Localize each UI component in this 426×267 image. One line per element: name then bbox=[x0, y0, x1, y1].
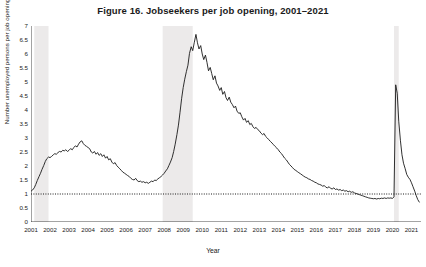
x-axis-ticks: 2001200220032004200520062007200820092010… bbox=[31, 226, 425, 238]
y-tick-label: 4 bbox=[2, 106, 28, 113]
y-tick-label: 3 bbox=[2, 134, 28, 141]
figure-container: Figure 16. Jobseekers per job opening, 2… bbox=[0, 0, 426, 267]
y-tick-label: 5 bbox=[2, 78, 28, 85]
shaded-band-recession-2001 bbox=[34, 26, 48, 222]
y-tick-label: 0.5 bbox=[2, 204, 28, 211]
y-tick-label: 1.5 bbox=[2, 176, 28, 183]
x-axis-label: Year bbox=[0, 247, 426, 254]
y-tick-label: 0 bbox=[2, 218, 28, 225]
line-chart-svg bbox=[31, 26, 421, 222]
y-tick-label: 6 bbox=[2, 50, 28, 57]
data-line-series-0 bbox=[31, 34, 419, 202]
y-tick-label: 5.5 bbox=[2, 64, 28, 71]
plot-area bbox=[31, 26, 421, 222]
figure-title: Figure 16. Jobseekers per job opening, 2… bbox=[0, 5, 426, 16]
x-tick-label: 2021 bbox=[400, 226, 422, 233]
y-tick-label: 2 bbox=[2, 162, 28, 169]
y-tick-label: 1 bbox=[2, 190, 28, 197]
shaded-band-recession-2007-2009 bbox=[163, 26, 193, 222]
y-tick-label: 6.5 bbox=[2, 36, 28, 43]
y-tick-label: 4.5 bbox=[2, 92, 28, 99]
y-tick-label: 3.5 bbox=[2, 120, 28, 127]
y-tick-label: 2.5 bbox=[2, 148, 28, 155]
y-tick-label: 7 bbox=[2, 22, 28, 29]
y-axis-ticks: 00.511.522.533.544.555.566.57 bbox=[0, 26, 28, 222]
